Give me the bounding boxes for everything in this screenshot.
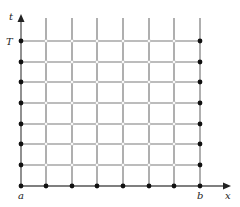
interior-point — [121, 122, 124, 125]
interior-point — [70, 163, 73, 166]
boundary-point — [19, 163, 24, 168]
interior-point — [172, 142, 175, 145]
interior-point — [70, 142, 73, 145]
interior-point — [95, 60, 98, 63]
grid-diagram: t T a b x — [0, 0, 240, 207]
boundary-point — [19, 60, 24, 65]
axis-labels: t T a b x — [6, 11, 231, 201]
boundary-point — [70, 184, 75, 189]
boundary-point — [198, 142, 203, 147]
interior-point — [95, 163, 98, 166]
boundary-point — [198, 163, 203, 168]
interior-point — [95, 142, 98, 145]
boundary-point — [19, 122, 24, 127]
interior-point — [172, 39, 175, 42]
x-axis-label: x — [225, 190, 231, 201]
interior-point — [147, 122, 150, 125]
boundary-point — [19, 101, 24, 106]
T-label: T — [6, 36, 14, 47]
interior-point — [44, 101, 47, 104]
t-axis-arrow-icon — [18, 14, 25, 22]
t-axis-label: t — [9, 11, 14, 22]
boundary-point — [198, 80, 203, 85]
interior-point — [44, 60, 47, 63]
interior-point — [172, 80, 175, 83]
interior-point — [121, 80, 124, 83]
interior-point — [147, 80, 150, 83]
interior-point — [147, 101, 150, 104]
boundary-point — [95, 184, 100, 189]
boundary-point — [198, 184, 203, 189]
interior-point — [121, 142, 124, 145]
boundary-point — [121, 184, 126, 189]
boundary-point — [198, 101, 203, 106]
interior-point — [172, 60, 175, 63]
boundary-point — [172, 184, 177, 189]
a-label: a — [18, 190, 24, 201]
interior-point — [172, 101, 175, 104]
interior-point — [44, 80, 47, 83]
interior-point — [44, 163, 47, 166]
interior-point — [44, 142, 47, 145]
interior-point — [147, 142, 150, 145]
interior-point — [121, 39, 124, 42]
interior-point — [70, 122, 73, 125]
interior-point — [44, 122, 47, 125]
interior-point — [70, 39, 73, 42]
interior-point — [70, 101, 73, 104]
boundary-point — [19, 39, 24, 44]
interior-point — [95, 39, 98, 42]
interior-point — [147, 39, 150, 42]
x-axis-arrow-icon — [223, 183, 231, 190]
boundary-point — [198, 39, 203, 44]
interior-point — [44, 39, 47, 42]
interior-point — [95, 80, 98, 83]
boundary-point — [44, 184, 49, 189]
boundary-point — [198, 60, 203, 65]
interior-point — [95, 122, 98, 125]
boundary-point — [19, 184, 24, 189]
interior-point — [95, 101, 98, 104]
interior-point — [70, 60, 73, 63]
interior-point — [121, 101, 124, 104]
interior-point — [172, 122, 175, 125]
boundary-point — [198, 122, 203, 127]
boundary-point — [19, 80, 24, 85]
interior-point — [70, 80, 73, 83]
boundary-point — [147, 184, 152, 189]
b-label: b — [197, 190, 203, 201]
interior-point — [147, 163, 150, 166]
interior-point — [121, 60, 124, 63]
interior-point — [172, 163, 175, 166]
interior-point — [121, 163, 124, 166]
boundary-point — [19, 142, 24, 147]
interior-point — [147, 60, 150, 63]
